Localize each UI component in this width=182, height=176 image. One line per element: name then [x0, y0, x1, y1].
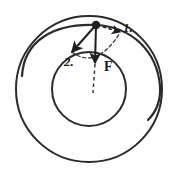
- vector-1-label: 1.: [123, 21, 133, 34]
- vector-2-arrow: [72, 26, 95, 52]
- outer-orbit-circle: [16, 16, 162, 162]
- center-direction-guide: [93, 64, 95, 93]
- force-label: F: [104, 60, 113, 74]
- vector-2-label: 2.: [64, 55, 74, 68]
- vector-force-arrow: [95, 26, 96, 63]
- transfer-orbit-arc: [22, 25, 160, 120]
- orbiting-body-dot: [92, 21, 100, 29]
- diagram-canvas: [0, 0, 182, 176]
- orbit-diagram: 1. 2. F: [0, 0, 182, 176]
